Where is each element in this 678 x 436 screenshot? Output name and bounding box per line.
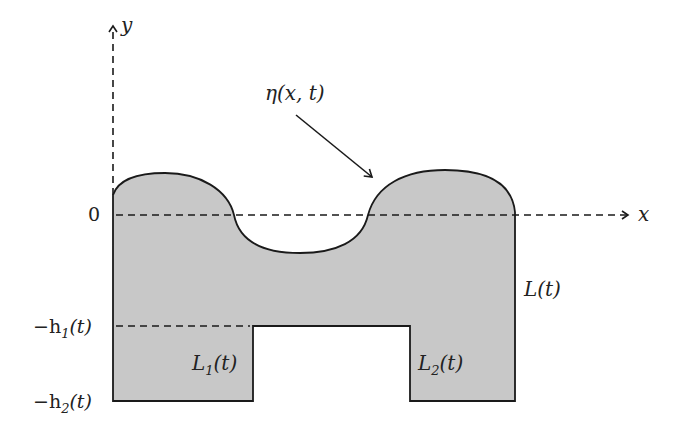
- y-axis-label: y: [120, 13, 133, 37]
- h2-label: −h2(t): [33, 390, 92, 416]
- x-axis-label: x: [638, 202, 649, 226]
- origin-label: 0: [88, 203, 100, 225]
- length-L2-label: L2(t): [417, 351, 463, 378]
- fluid-domain-diagram: y x 0 −h1(t) −h2(t) η(x, t) L(t) L1(t) L…: [0, 0, 678, 436]
- length-L1-label: L1(t): [191, 351, 237, 378]
- surface-elevation-label: η(x, t): [265, 81, 325, 105]
- h1-label: −h1(t): [33, 315, 92, 341]
- length-L-label: L(t): [523, 277, 561, 301]
- surface-pointer-arrow: [296, 115, 372, 177]
